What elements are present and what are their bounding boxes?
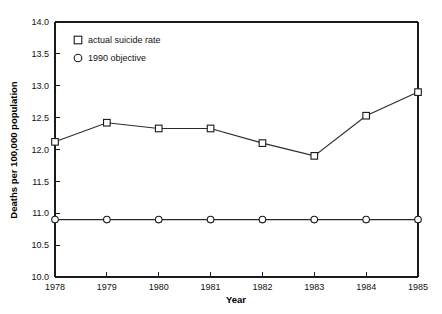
data-point-marker-circle bbox=[415, 216, 422, 223]
chart-legend: actual suicide rate1990 objective bbox=[74, 35, 160, 63]
data-point-marker-square bbox=[207, 125, 214, 132]
series-actual-suicide-rate bbox=[52, 89, 422, 159]
x-tick-label: 1979 bbox=[97, 282, 117, 292]
data-point-marker-circle bbox=[311, 216, 318, 223]
legend-label: 1990 objective bbox=[88, 53, 146, 63]
y-tick-label: 12.0 bbox=[31, 145, 49, 155]
legend-label: actual suicide rate bbox=[88, 35, 161, 45]
data-point-marker-square bbox=[155, 125, 162, 132]
legend-marker-square bbox=[74, 36, 82, 44]
chart-container: Deaths per 100,000 population Year 10.01… bbox=[0, 0, 442, 314]
line-chart: Deaths per 100,000 population Year 10.01… bbox=[0, 0, 442, 314]
x-axis-ticks: 19781979198019811982198319841985 bbox=[45, 272, 428, 292]
data-point-marker-circle bbox=[259, 216, 266, 223]
y-tick-label: 13.5 bbox=[31, 49, 49, 59]
x-tick-label: 1985 bbox=[408, 282, 428, 292]
y-tick-label: 14.0 bbox=[31, 17, 49, 27]
x-tick-label: 1980 bbox=[149, 282, 169, 292]
y-tick-label: 10.5 bbox=[31, 240, 49, 250]
y-tick-label: 11.0 bbox=[32, 208, 49, 218]
x-axis-title: Year bbox=[226, 294, 246, 305]
y-tick-label: 10.0 bbox=[31, 272, 49, 282]
data-point-marker-square bbox=[311, 153, 318, 160]
y-tick-label: 12.5 bbox=[31, 113, 49, 123]
data-point-marker-square bbox=[259, 140, 266, 147]
data-point-marker-circle bbox=[363, 216, 370, 223]
data-point-marker-circle bbox=[155, 216, 162, 223]
data-point-marker-circle bbox=[207, 216, 214, 223]
y-tick-label: 13.0 bbox=[31, 81, 49, 91]
data-point-marker-circle bbox=[104, 216, 111, 223]
x-tick-label: 1984 bbox=[356, 282, 376, 292]
y-axis-ticks: 10.010.511.011.512.012.513.013.514.0 bbox=[31, 17, 60, 282]
data-point-marker-circle bbox=[52, 216, 59, 223]
x-tick-label: 1983 bbox=[304, 282, 324, 292]
data-point-marker-square bbox=[363, 112, 370, 119]
x-tick-label: 1978 bbox=[45, 282, 65, 292]
x-tick-label: 1981 bbox=[201, 282, 221, 292]
x-tick-label: 1982 bbox=[252, 282, 272, 292]
data-point-marker-square bbox=[104, 119, 111, 126]
y-tick-label: 11.5 bbox=[32, 177, 49, 187]
y-axis-title: Deaths per 100,000 population bbox=[8, 81, 19, 218]
data-point-marker-square bbox=[52, 139, 59, 146]
data-point-marker-square bbox=[415, 89, 422, 96]
series-1990-objective bbox=[52, 216, 422, 223]
legend-marker-circle bbox=[74, 54, 82, 62]
